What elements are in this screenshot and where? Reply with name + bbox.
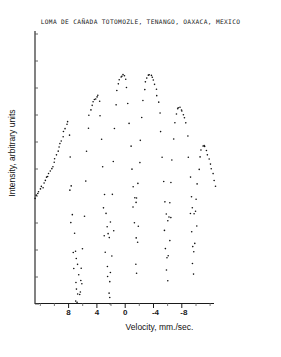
x-tick-label: -4 (146, 308, 166, 317)
mossbauer-spectrum-figure: LOMA DE CAÑADA TOTOMOZLE, TENANGO, OAXAC… (0, 0, 281, 357)
x-tick-label: 8 (59, 308, 79, 317)
x-axis-caption: Velocity, mm./sec. (0, 322, 281, 332)
plot-area (35, 30, 215, 305)
x-tick-label: -8 (174, 308, 194, 317)
x-tick-label: 0 (115, 308, 135, 317)
y-axis-caption: Intensity, arbitrary units (7, 53, 17, 253)
x-tick-label: 4 (87, 308, 107, 317)
data-point-cloud (35, 30, 215, 305)
